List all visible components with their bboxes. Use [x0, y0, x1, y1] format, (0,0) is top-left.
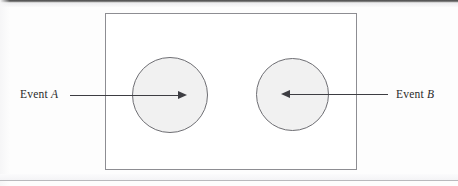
event-a-arrow-line	[70, 95, 182, 96]
event-b-label: Event B	[396, 88, 434, 100]
scan-artifact-bottom-rule	[0, 180, 458, 181]
scan-artifact-top-haze	[0, 3, 458, 7]
event-a-label-prefix: Event	[20, 88, 51, 100]
scan-artifact-left-haze	[0, 0, 10, 186]
event-b-arrow-line	[289, 94, 388, 95]
figure-canvas: Event A Event B	[0, 0, 458, 186]
event-b-label-variable: B	[427, 88, 434, 100]
event-b-arrowhead-icon	[281, 90, 290, 98]
event-b-label-prefix: Event	[396, 88, 427, 100]
event-a-arrowhead-icon	[178, 91, 187, 99]
event-a-label: Event A	[20, 88, 58, 100]
event-a-label-variable: A	[51, 88, 58, 100]
